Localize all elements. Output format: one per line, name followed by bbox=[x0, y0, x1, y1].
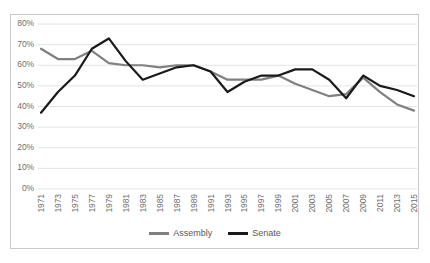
x-axis-tick-label: 2007 bbox=[341, 194, 351, 213]
gridlines-group bbox=[38, 24, 417, 189]
series-lines-group bbox=[41, 38, 414, 112]
x-axis-tick-label: 1987 bbox=[172, 194, 182, 213]
y-axis-tick-label: 80% bbox=[6, 18, 34, 28]
y-axis-tick-label: 30% bbox=[6, 121, 34, 131]
legend-label: Senate bbox=[252, 228, 281, 238]
x-axis-tick-label: 1999 bbox=[273, 194, 283, 213]
chart-plot-frame: 80%70%60%50%40%30%20%10%0% 1971197319751… bbox=[10, 14, 419, 249]
x-axis-tick-label: 1993 bbox=[223, 194, 233, 213]
y-axis-tick-label: 60% bbox=[6, 59, 34, 69]
x-axis-tick-label: 1981 bbox=[121, 194, 131, 213]
x-axis-tick-label: 1989 bbox=[189, 194, 199, 213]
y-axis-tick-label: 70% bbox=[6, 39, 34, 49]
y-axis-tick-label: 40% bbox=[6, 101, 34, 111]
y-axis-tick-label: 0% bbox=[6, 183, 34, 193]
x-axis-tick-label: 1985 bbox=[155, 194, 165, 213]
x-axis-tick-label: 1991 bbox=[206, 194, 216, 213]
legend-swatch-senate bbox=[228, 232, 248, 235]
legend-swatch-assembly bbox=[149, 232, 169, 235]
chart-plot-area bbox=[11, 15, 418, 248]
x-axis-tick-label: 1971 bbox=[36, 194, 46, 213]
x-axis-tick-label: 2013 bbox=[392, 194, 402, 213]
x-axis-tick-label: 2011 bbox=[375, 194, 385, 212]
x-axis-tick-label: 2005 bbox=[324, 194, 334, 213]
x-axis-tick-label: 2009 bbox=[358, 194, 368, 213]
x-axis-tick-label: 2003 bbox=[307, 194, 317, 213]
x-axis-tick-label: 1979 bbox=[104, 194, 114, 213]
x-axis-tick-label: 1975 bbox=[70, 194, 80, 213]
x-axis-tick-label: 1977 bbox=[87, 194, 97, 213]
series-line-senate bbox=[41, 38, 414, 112]
chart-legend: AssemblySenate bbox=[0, 228, 430, 238]
x-axis-tick-label: 1995 bbox=[239, 194, 249, 213]
x-axis-tick-label: 1997 bbox=[256, 194, 266, 213]
x-axis-tick-label: 2001 bbox=[290, 194, 300, 213]
x-axis-tick-label: 1983 bbox=[138, 194, 148, 213]
chart-container: 80%70%60%50%40%30%20%10%0% 1971197319751… bbox=[0, 0, 430, 263]
legend-label: Assembly bbox=[173, 228, 212, 238]
legend-entry-assembly[interactable]: Assembly bbox=[149, 228, 212, 238]
series-line-assembly bbox=[41, 49, 414, 111]
y-axis-tick-label: 50% bbox=[6, 80, 34, 90]
x-axis-tick-label: 1973 bbox=[53, 194, 63, 213]
legend-entry-senate[interactable]: Senate bbox=[228, 228, 281, 238]
y-axis-tick-label: 10% bbox=[6, 162, 34, 172]
y-axis-tick-label: 20% bbox=[6, 142, 34, 152]
x-axis-tick-label: 2015 bbox=[409, 194, 419, 213]
